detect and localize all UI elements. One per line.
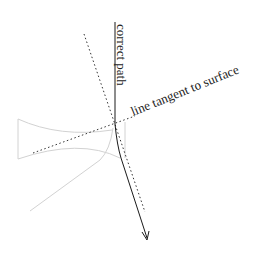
tangent-line-dotted [33,116,135,153]
correct-path-label: correct path [114,24,129,86]
surface-slanted-line [30,128,113,211]
tangent-line-label: line tangent to surface [129,62,242,119]
lens-upper-curve [18,119,112,132]
lens-surface [18,119,125,211]
refraction-diagram: correct path line tangent to surface [0,0,274,258]
